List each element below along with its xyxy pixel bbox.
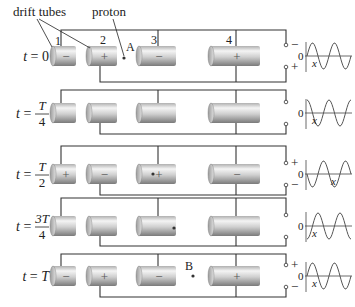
drift-tube-3 <box>136 216 176 236</box>
tube-body <box>210 103 260 123</box>
top-wire <box>61 198 286 216</box>
tube-charge: + <box>233 49 240 64</box>
time-text: t = <box>16 219 31 234</box>
terminal-top <box>284 43 288 47</box>
drift-tube-2: + <box>86 266 117 286</box>
tube-charge: − <box>233 167 240 182</box>
time-text: t = 0 <box>23 49 49 64</box>
drift-tube-1: − <box>50 266 76 286</box>
top-wire <box>61 254 286 266</box>
drift-tube-2 <box>86 103 117 123</box>
time-text: t = <box>16 106 31 121</box>
tube-cap <box>208 46 214 66</box>
time-label: t = 0 <box>23 49 49 64</box>
row-3: t =3T40x <box>16 198 352 246</box>
tube-charge: − <box>101 167 108 182</box>
axis-x-label: x <box>330 175 336 187</box>
axis-zero: 0 <box>298 50 304 62</box>
drift-tubes-label: drift tubes <box>13 4 66 19</box>
row-1: t =T40x <box>16 90 352 134</box>
axis-x-label: x <box>311 114 317 126</box>
time-text: t = <box>16 167 31 182</box>
tube-charge: − <box>62 49 69 64</box>
time-denominator: 4 <box>39 227 46 242</box>
tube-body <box>138 216 176 236</box>
drift-tube-4: − <box>208 164 260 184</box>
waveform-plot: 0x <box>298 42 352 72</box>
proton-dot <box>122 56 125 59</box>
tube-cap <box>136 46 142 66</box>
tube-cap <box>86 164 92 184</box>
time-text: t = T <box>22 269 50 284</box>
drift-tube-1: + <box>50 164 76 184</box>
tube-charge: − <box>155 269 162 284</box>
axis-x-label: x <box>311 277 317 289</box>
tube-charge: + <box>101 49 108 64</box>
axis-zero: 0 <box>298 168 304 180</box>
terminal-top <box>284 263 288 267</box>
drift-tube-1 <box>50 103 76 123</box>
waveform-plot: 0x <box>298 99 352 129</box>
drift-tube-2: − <box>86 164 117 184</box>
axis-x-label: x <box>311 57 317 69</box>
drift-tube-4 <box>208 103 260 123</box>
tube-number-4: 4 <box>226 33 232 47</box>
tube-cap <box>50 266 56 286</box>
tube-body <box>88 216 117 236</box>
terminal-top <box>284 161 288 165</box>
drift-tube-diagram: −+−+−+t = 00xt =T40x+−+−+−t =T20xt =3T40… <box>0 0 355 307</box>
bottom-wire <box>100 66 286 82</box>
drift-tube-2: + <box>86 46 117 66</box>
waveform-plot: 0x <box>298 160 352 190</box>
point-a-label: A <box>126 40 135 54</box>
time-numerator: T <box>38 159 46 174</box>
time-denominator: 4 <box>39 114 46 129</box>
bottom-wire <box>100 286 286 297</box>
top-wire <box>61 90 286 103</box>
proton-dot <box>172 226 175 229</box>
drift-tube-4: + <box>208 266 260 286</box>
time-label: t =T2 <box>16 159 49 190</box>
tube-cap <box>136 164 142 184</box>
tube-charge: + <box>155 167 162 182</box>
time-denominator: 2 <box>39 175 46 190</box>
terminal-top <box>284 213 288 217</box>
terminal-bottom <box>284 285 288 289</box>
tube-cap <box>208 103 214 123</box>
tube-cap <box>136 266 142 286</box>
tube-cap <box>86 216 92 236</box>
tube-cap <box>86 266 92 286</box>
drift-tubes-pointer-1 <box>37 19 52 47</box>
time-label: t =T4 <box>16 98 49 129</box>
tube-cap <box>50 103 56 123</box>
tube-number-3: 3 <box>151 33 157 47</box>
tube-cap <box>208 216 214 236</box>
tube-body <box>88 103 117 123</box>
tube-cap <box>136 103 142 123</box>
drift-tube-1: − <box>50 46 76 66</box>
bottom-wire <box>100 123 286 134</box>
proton-dot <box>191 274 194 277</box>
tube-body <box>210 216 260 236</box>
drift-tube-2 <box>86 216 117 236</box>
axis-x-label: x <box>311 227 317 239</box>
axis-zero: 0 <box>298 270 304 282</box>
tube-charge: + <box>101 269 108 284</box>
top-wire <box>61 146 286 164</box>
tube-charge: + <box>233 269 240 284</box>
tube-cap <box>208 266 214 286</box>
drift-tube-3 <box>136 103 176 123</box>
drift-tube-4: + <box>208 46 260 66</box>
drift-tube-4 <box>208 216 260 236</box>
terminal-bottom <box>284 122 288 126</box>
tube-charge: − <box>155 49 162 64</box>
tube-cap <box>136 216 142 236</box>
tube-number-1: 1 <box>55 34 61 48</box>
waveform-plot: 0x <box>298 262 352 292</box>
time-label: t = T <box>22 269 50 284</box>
bottom-wire <box>100 236 286 246</box>
time-numerator: 3T <box>34 211 50 226</box>
drift-tube-1 <box>50 216 76 236</box>
drift-tube-3: − <box>136 266 176 286</box>
tube-body <box>138 103 176 123</box>
